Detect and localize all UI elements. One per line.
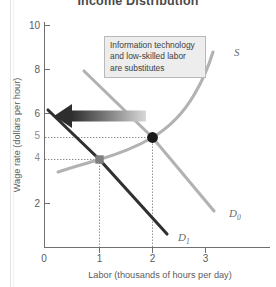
chart-figure: Income Distribution	[0, 0, 276, 287]
curve-label-d1: D	[177, 231, 186, 243]
y-tick-label-5: 5	[34, 130, 40, 141]
y-tick-label-2: 2	[34, 198, 40, 209]
substitutes-note-line-3: are substitutes	[110, 63, 201, 74]
curve-label-d1-group: D 1	[177, 231, 190, 246]
x-tick-label-2: 2	[150, 253, 156, 264]
substitutes-note-line-2: and low-skilled labor	[110, 51, 201, 62]
equilibrium-new-marker	[95, 155, 103, 163]
x-tick-label-0: 0	[41, 253, 47, 264]
x-axis-title: Labor (thousands of hours per day)	[88, 270, 232, 280]
curve-label-d0-subscript: 0	[237, 213, 241, 222]
substitutes-note-box: Information technology and low-skilled l…	[104, 36, 206, 78]
curve-label-d1-subscript: 1	[186, 237, 190, 246]
equilibrium-original-marker	[147, 132, 158, 143]
demand-shift-arrow	[54, 104, 146, 128]
demand-curve-d1	[48, 110, 167, 234]
guide-lines	[45, 138, 153, 248]
y-tick-label-6: 6	[34, 108, 40, 119]
curve-label-d0-group: D 0	[228, 207, 241, 222]
y-tick-label-8: 8	[34, 64, 40, 75]
x-tick-label-3: 3	[203, 253, 209, 264]
y-axis-title: Wage rate (dollars per hour)	[12, 78, 22, 193]
curve-label-s: S	[234, 46, 240, 58]
curve-label-d0: D	[228, 207, 237, 219]
x-tick-label-1: 1	[97, 253, 103, 264]
substitutes-note-line-1: Information technology	[110, 40, 201, 51]
y-tick-label-10: 10	[29, 20, 41, 31]
y-axis-ticks	[45, 26, 51, 204]
y-tick-label-4: 4	[34, 152, 40, 163]
